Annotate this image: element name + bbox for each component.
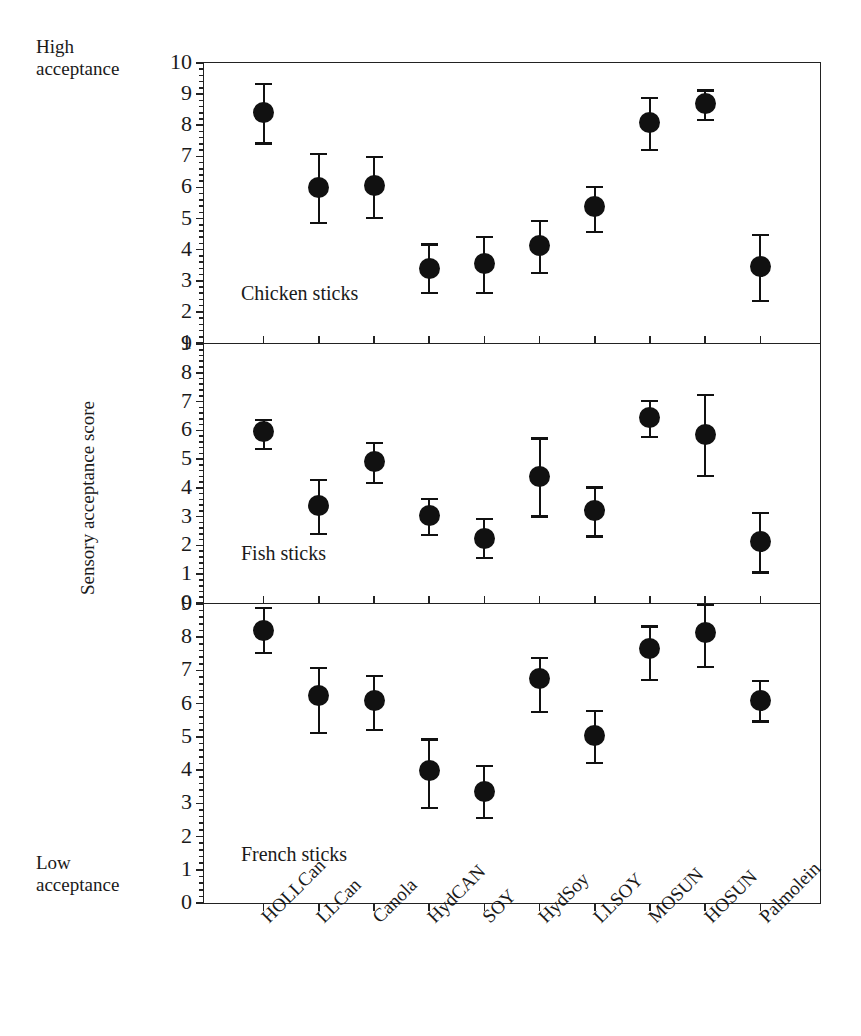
y-tick-label: 4	[152, 473, 192, 501]
y-tick-label: 9	[152, 79, 192, 107]
x-tick-mark	[539, 596, 541, 604]
y-tick-label: 9	[152, 329, 192, 357]
error-bar-cap-lower	[641, 679, 658, 681]
error-bar-cap-lower	[366, 217, 383, 219]
y-tick-label: 2	[152, 297, 192, 325]
y-tick-mark	[196, 343, 204, 345]
y-minor-tick-mark	[199, 882, 204, 884]
y-minor-tick-mark	[199, 212, 204, 214]
x-tick-mark	[484, 336, 486, 344]
x-tick-mark	[594, 596, 596, 604]
error-bar-cap-lower	[697, 666, 714, 668]
x-tick-mark	[263, 336, 265, 344]
y-tick-label: 6	[152, 415, 192, 443]
y-minor-tick-mark	[199, 87, 204, 89]
y-tick-label: 9	[152, 589, 192, 617]
y-minor-tick-mark	[199, 205, 204, 207]
y-minor-tick-mark	[199, 663, 204, 665]
y-minor-tick-mark	[199, 562, 204, 564]
error-bar-cap-lower	[586, 762, 603, 764]
y-tick-mark	[196, 545, 204, 547]
error-bar-cap-upper	[752, 234, 769, 236]
marker-dot	[308, 177, 329, 198]
y-minor-tick-mark	[199, 510, 204, 512]
error-bar-cap-lower	[531, 515, 548, 517]
y-tick-mark	[196, 62, 204, 64]
y-minor-tick-mark	[199, 816, 204, 818]
y-minor-tick-mark	[199, 418, 204, 420]
marker-dot	[529, 235, 550, 256]
y-minor-tick-mark	[199, 783, 204, 785]
y-tick-mark	[196, 124, 204, 126]
y-tick-label: 7	[152, 141, 192, 169]
marker-dot	[750, 256, 771, 277]
y-minor-tick-mark	[199, 889, 204, 891]
error-bar-cap-lower	[697, 475, 714, 477]
y-minor-tick-mark	[199, 383, 204, 385]
error-bar-cap-upper	[255, 607, 272, 609]
y-minor-tick-mark	[199, 324, 204, 326]
error-bar-cap-upper	[476, 518, 493, 520]
y-minor-tick-mark	[199, 896, 204, 898]
y-tick-label: 1	[152, 559, 192, 587]
y-minor-tick-mark	[199, 441, 204, 443]
y-minor-tick-mark	[199, 723, 204, 725]
y-minor-tick-mark	[199, 796, 204, 798]
marker-dot	[695, 622, 716, 643]
error-bar-cap-lower	[476, 292, 493, 294]
y-minor-tick-mark	[199, 470, 204, 472]
y-minor-tick-mark	[199, 230, 204, 232]
y-minor-tick-mark	[199, 349, 204, 351]
y-minor-tick-mark	[199, 224, 204, 226]
y-minor-tick-mark	[199, 305, 204, 307]
error-bar-cap-lower	[531, 711, 548, 713]
y-minor-tick-mark	[199, 539, 204, 541]
y-tick-label: 4	[152, 235, 192, 263]
error-bar-cap-lower	[752, 720, 769, 722]
marker-dot	[474, 253, 495, 274]
y-tick-label: 8	[152, 622, 192, 650]
marker-dot	[474, 781, 495, 802]
y-minor-tick-mark	[199, 749, 204, 751]
error-bar-cap-upper	[641, 400, 658, 402]
y-tick-label: 6	[152, 172, 192, 200]
y-axis-title: Sensory acceptance score	[77, 348, 99, 648]
marker-dot	[419, 258, 440, 279]
error-bar-cap-upper	[366, 156, 383, 158]
error-bar-cap-upper	[641, 97, 658, 99]
y-tick-label: 3	[152, 502, 192, 530]
marker-dot	[695, 424, 716, 445]
y-tick-label: 2	[152, 530, 192, 558]
y-tick-mark	[196, 311, 204, 313]
y-minor-tick-mark	[199, 676, 204, 678]
y-minor-tick-mark	[199, 710, 204, 712]
y-minor-tick-mark	[199, 504, 204, 506]
marker-dot	[364, 690, 385, 711]
y-minor-tick-mark	[199, 435, 204, 437]
y-minor-tick-mark	[199, 243, 204, 245]
y-minor-tick-mark	[199, 389, 204, 391]
y-minor-tick-mark	[199, 149, 204, 151]
y-minor-tick-mark	[199, 299, 204, 301]
y-minor-tick-mark	[199, 447, 204, 449]
error-bar-cap-upper	[586, 186, 603, 188]
y-minor-tick-mark	[199, 464, 204, 466]
y-minor-tick-mark	[199, 756, 204, 758]
x-axis-category-labels: HOLLCanLLCanCanolaHydCANSOYHydSoyLLSOYMO…	[203, 908, 821, 1028]
error-bar-cap-lower	[531, 272, 548, 274]
error-bar-cap-upper	[476, 765, 493, 767]
error-bar-cap-lower	[366, 729, 383, 731]
y-tick-mark	[196, 516, 204, 518]
y-tick-label: 1	[152, 855, 192, 883]
marker-dot	[308, 685, 329, 706]
y-tick-label: 5	[152, 722, 192, 750]
error-bar-cap-lower	[421, 534, 438, 536]
y-tick-mark	[196, 836, 204, 838]
x-tick-mark	[428, 596, 430, 604]
y-minor-tick-mark	[199, 106, 204, 108]
marker-dot	[639, 112, 660, 133]
y-minor-tick-mark	[199, 168, 204, 170]
error-bar-cap-upper	[531, 437, 548, 439]
y-tick-mark	[196, 487, 204, 489]
marker-dot	[750, 690, 771, 711]
